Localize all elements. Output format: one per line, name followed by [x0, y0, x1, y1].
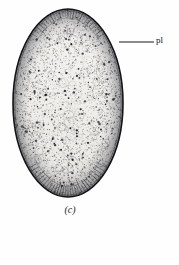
figure-panel: pl (c): [0, 0, 179, 265]
panel-caption: (c): [0, 204, 140, 216]
ovoid-body: [13, 9, 123, 197]
label-pl: pl: [156, 35, 163, 45]
biological-illustration: [0, 0, 179, 265]
